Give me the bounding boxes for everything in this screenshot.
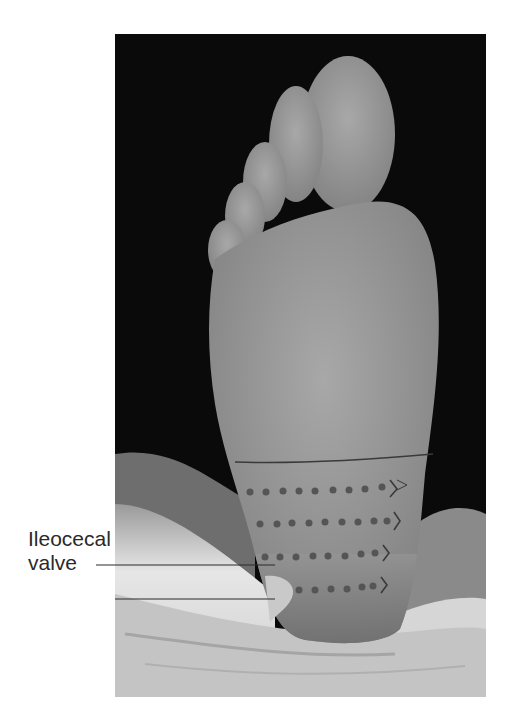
callout-label-line1: Ileocecal <box>28 527 111 551</box>
callout-leader <box>0 0 508 722</box>
callout-ileocecal-valve: Ileocecal valve <box>28 527 111 575</box>
callout-label-line2: valve <box>28 551 111 575</box>
